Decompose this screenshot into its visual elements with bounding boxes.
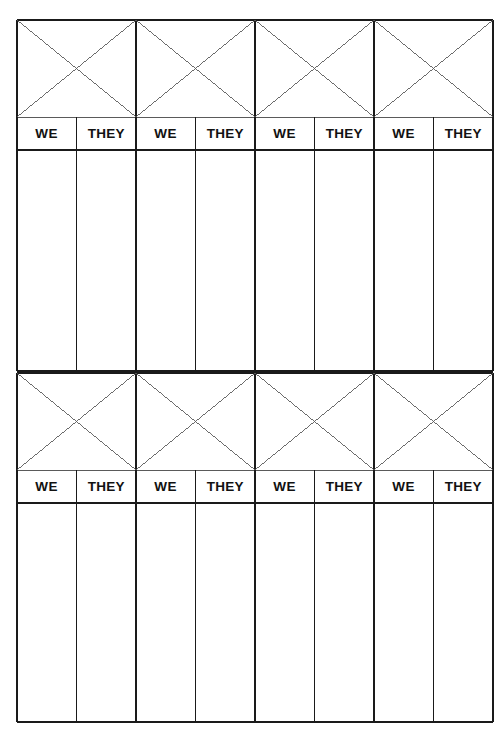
lower-x-stroke-down-3	[374, 373, 493, 470]
lower-x-stroke-up-3	[374, 373, 493, 470]
lower-x-stroke-up-1	[136, 373, 255, 470]
write-cell[interactable]	[136, 503, 196, 722]
lower-x-stroke-down-2	[255, 373, 374, 470]
upper-x-stroke-down-1	[136, 20, 255, 117]
write-cell[interactable]	[255, 503, 315, 722]
write-cell[interactable]	[255, 150, 315, 371]
write-cell[interactable]	[77, 503, 137, 722]
write-cell[interactable]	[315, 503, 375, 722]
header-cell-we-1: WE	[17, 117, 77, 150]
header-cell-we-3: WE	[255, 470, 315, 503]
lower-x-stroke-down-1	[136, 373, 255, 470]
header-cell-they-1: THEY	[77, 470, 137, 503]
header-cell-they-4: THEY	[434, 470, 494, 503]
write-cell[interactable]	[17, 503, 77, 722]
upper-x-stroke-down-2	[255, 20, 374, 117]
upper-x-stroke-up-1	[136, 20, 255, 117]
upper-x-stroke-down-0	[17, 20, 136, 117]
write-cell[interactable]	[374, 503, 434, 722]
lower-write-in-grid	[17, 503, 493, 722]
upper-x-stroke-up-2	[255, 20, 374, 117]
write-cell[interactable]	[315, 150, 375, 371]
upper-header-label-row: WE THEY WE THEY WE THEY WE THEY	[17, 117, 493, 150]
lower-x-stroke-down-0	[17, 373, 136, 470]
header-cell-they-3: THEY	[315, 117, 375, 150]
header-cell-they-4: THEY	[434, 117, 494, 150]
write-cell[interactable]	[77, 150, 137, 371]
upper-x-stroke-up-3	[374, 20, 493, 117]
write-cell[interactable]	[136, 150, 196, 371]
header-cell-we-1: WE	[17, 470, 77, 503]
header-cell-they-1: THEY	[77, 117, 137, 150]
header-cell-they-2: THEY	[196, 470, 256, 503]
header-cell-we-3: WE	[255, 117, 315, 150]
upper-x-stroke-down-3	[374, 20, 493, 117]
header-cell-we-4: WE	[374, 117, 434, 150]
header-cell-we-4: WE	[374, 470, 434, 503]
write-cell[interactable]	[196, 503, 256, 722]
lower-header-label-row: WE THEY WE THEY WE THEY WE THEY	[17, 470, 493, 503]
write-cell[interactable]	[196, 150, 256, 371]
score-sheet-page: WE THEY WE THEY WE THEY WE THEY WE THEY …	[0, 0, 503, 741]
lower-x-stroke-up-0	[17, 373, 136, 470]
write-cell[interactable]	[434, 150, 494, 371]
write-cell[interactable]	[17, 150, 77, 371]
upper-write-in-grid	[17, 150, 493, 371]
upper-x-stroke-up-0	[17, 20, 136, 117]
header-cell-they-2: THEY	[196, 117, 256, 150]
header-cell-they-3: THEY	[315, 470, 375, 503]
write-cell[interactable]	[434, 503, 494, 722]
header-cell-we-2: WE	[136, 470, 196, 503]
lower-x-stroke-up-2	[255, 373, 374, 470]
write-cell[interactable]	[374, 150, 434, 371]
header-cell-we-2: WE	[136, 117, 196, 150]
